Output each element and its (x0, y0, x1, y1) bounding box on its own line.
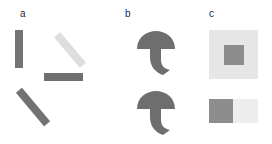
panel-a-dark-diagonal-bar (16, 88, 50, 127)
figure-canvas: a b c (0, 0, 272, 144)
panel-a: a (0, 0, 92, 144)
panel-b-label: b (125, 9, 131, 19)
panel-a-label: a (20, 9, 26, 19)
panel-b: b (92, 0, 182, 144)
panel-a-light-diagonal-bar (54, 32, 86, 68)
panel-a-vertical-bar (15, 30, 23, 68)
panel-b-mushroom-shape-top (134, 30, 178, 76)
panel-c-split-left-square (209, 99, 233, 123)
panel-b-mushroom-shape-bottom (134, 90, 178, 136)
panel-c-label: c (209, 9, 214, 19)
panel-a-horizontal-bar (44, 73, 83, 81)
panel-c-split-right-square (233, 99, 258, 123)
panel-c: c (182, 0, 272, 144)
panel-c-inner-square (224, 45, 244, 65)
